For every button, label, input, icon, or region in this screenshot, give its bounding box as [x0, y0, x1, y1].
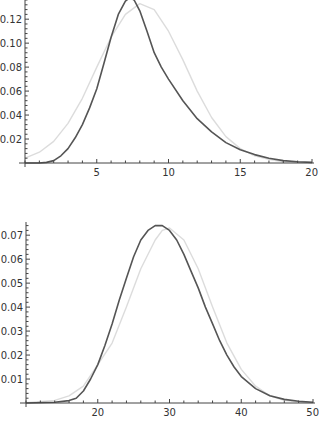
y-tick-label: 0.07: [1, 230, 23, 241]
series-curve: [25, 0, 312, 163]
y-tick-label: 0.10: [0, 38, 22, 49]
x-tick-label: 20: [91, 407, 104, 418]
x-tick-label: 30: [163, 407, 176, 418]
x-tick-label: 5: [94, 167, 100, 178]
series-curve: [25, 4, 312, 163]
y-tick-label: 0.06: [1, 254, 23, 265]
chart-canvas: 51015200.020.040.060.080.100.12 20304050…: [0, 0, 319, 429]
y-tick-label: 0.01: [1, 374, 23, 385]
top-density-plot: 51015200.020.040.060.080.100.12: [0, 0, 318, 178]
x-tick-label: 40: [235, 407, 248, 418]
y-tick-label: 0.03: [1, 326, 23, 337]
y-tick-label: 0.02: [1, 350, 23, 361]
y-tick-label: 0.04: [1, 302, 23, 313]
x-tick-label: 10: [162, 167, 175, 178]
series-curve: [26, 226, 313, 403]
series-curve: [26, 228, 313, 403]
bottom-density-plot: 203040500.010.020.030.040.050.060.07: [1, 222, 319, 418]
x-tick-label: 50: [306, 407, 319, 418]
y-tick-label: 0.04: [0, 110, 22, 121]
y-tick-label: 0.08: [0, 62, 22, 73]
y-tick-label: 0.05: [1, 278, 23, 289]
y-tick-label: 0.12: [0, 14, 22, 25]
y-tick-label: 0.06: [0, 86, 22, 97]
x-tick-label: 20: [305, 167, 318, 178]
x-tick-label: 15: [234, 167, 247, 178]
y-tick-label: 0.02: [0, 134, 22, 145]
